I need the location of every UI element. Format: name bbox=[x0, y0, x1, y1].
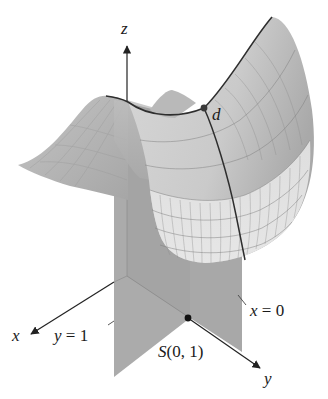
point-d-label: d bbox=[212, 105, 221, 124]
plane-y1-label: y = 1 bbox=[52, 326, 88, 345]
surface-left-wing bbox=[18, 96, 128, 200]
z-axis-label: z bbox=[120, 19, 128, 38]
y-axis-label: y bbox=[262, 369, 272, 388]
plane-x0-label-group: x = 0 bbox=[238, 295, 284, 320]
surface-diagram: z x y d S(0, 1) y = 1 x = 0 bbox=[0, 0, 328, 399]
point-S-label: S(0, 1) bbox=[158, 342, 203, 361]
z-axis: z bbox=[120, 19, 128, 101]
plane-x0-label: x = 0 bbox=[249, 301, 284, 320]
x-axis-label: x bbox=[11, 326, 20, 345]
plane-y1-label-group: y = 1 bbox=[52, 321, 114, 345]
